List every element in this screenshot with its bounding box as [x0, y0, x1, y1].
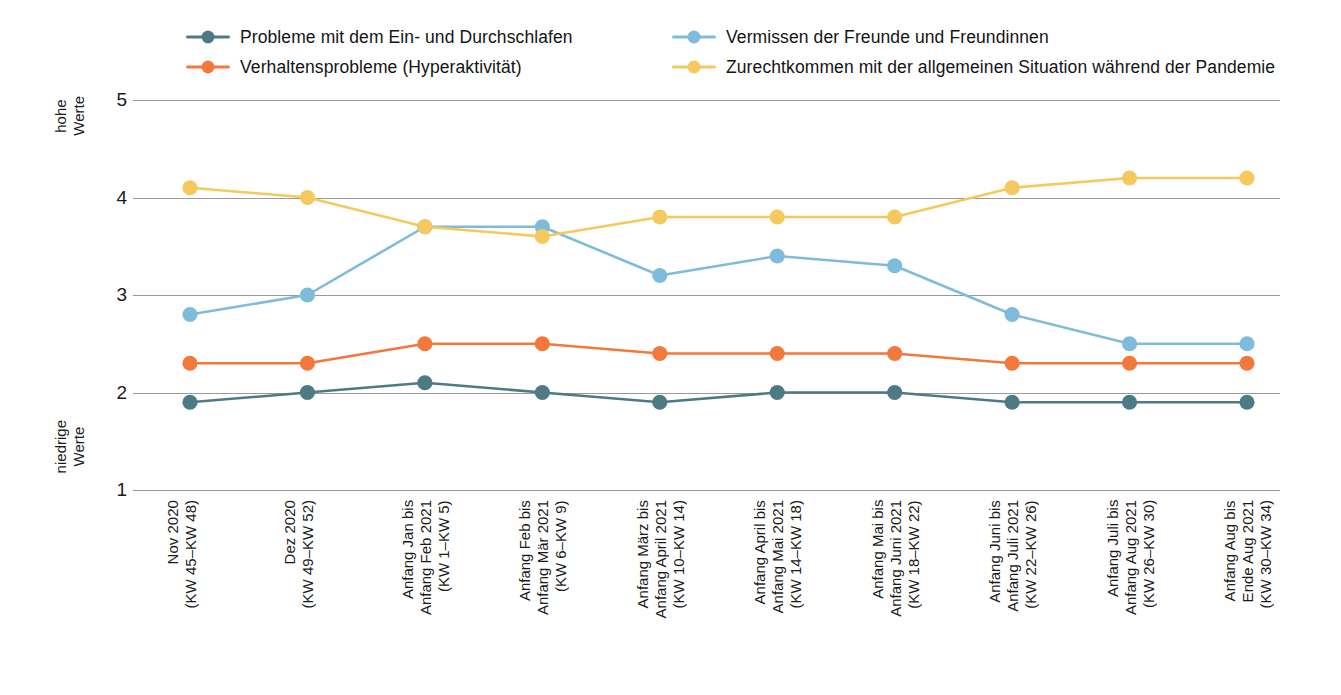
y-axis-tick-label: 3 [87, 284, 127, 306]
data-point[interactable] [1122, 395, 1137, 410]
plot-area: 12345 [133, 100, 1280, 490]
x-axis-label: Anfang Juli bis Anfang Aug 2021 (KW 26–K… [1104, 500, 1158, 615]
data-point[interactable] [652, 209, 667, 224]
data-point[interactable] [887, 258, 902, 273]
data-point[interactable] [300, 287, 315, 302]
data-point[interactable] [1005, 307, 1020, 322]
data-point[interactable] [300, 356, 315, 371]
legend-marker-icon [186, 29, 230, 45]
data-point[interactable] [652, 346, 667, 361]
data-point[interactable] [770, 209, 785, 224]
data-point[interactable] [887, 346, 902, 361]
y-axis-tick-label: 2 [87, 382, 127, 404]
legend-item-vermissen[interactable]: Vermissen der Freunde und Freundinnen [672, 27, 1306, 48]
data-point[interactable] [182, 307, 197, 322]
x-axis-label: Anfang Aug bis Ende Aug 2021 (KW 30–KW 3… [1221, 500, 1275, 608]
legend-marker-icon [672, 59, 716, 75]
data-point[interactable] [887, 385, 902, 400]
x-axis-label: Dez 2020 (KW 49–KW 52) [281, 500, 317, 608]
x-axis-label: Anfang Jan bis Anfang Feb 2021 (KW 1–KW … [399, 500, 453, 615]
legend-label: Zurechtkommen mit der allgemeinen Situat… [726, 57, 1275, 78]
data-point[interactable] [770, 248, 785, 263]
data-point[interactable] [300, 190, 315, 205]
data-point[interactable] [182, 180, 197, 195]
x-axis-label: Anfang April bis Anfang Mai 2021 (KW 14–… [751, 500, 805, 613]
data-point[interactable] [1239, 356, 1254, 371]
y-axis-high-note: hohe Werte [52, 96, 87, 136]
legend-item-schlafen[interactable]: Probleme mit dem Ein- und Durchschlafen [186, 27, 672, 48]
data-point[interactable] [535, 336, 550, 351]
series-layer [133, 100, 1280, 490]
data-point[interactable] [770, 346, 785, 361]
data-point[interactable] [1005, 356, 1020, 371]
legend-label: Verhaltensprobleme (Hyperaktivität) [240, 57, 522, 78]
series-line [190, 178, 1247, 237]
y-axis-tick-label: 4 [87, 187, 127, 209]
legend-marker-icon [186, 59, 230, 75]
data-point[interactable] [1122, 336, 1137, 351]
series-line [190, 383, 1247, 403]
x-axis-label: Anfang Feb bis Anfang Mär 2021 (KW 6–KW … [516, 500, 570, 615]
y-axis-tick-label: 5 [87, 89, 127, 111]
data-point[interactable] [1005, 180, 1020, 195]
data-point[interactable] [1239, 395, 1254, 410]
data-point[interactable] [535, 385, 550, 400]
legend-item-zurechtkommen[interactable]: Zurechtkommen mit der allgemeinen Situat… [672, 57, 1306, 78]
data-point[interactable] [770, 385, 785, 400]
y-axis-tick-label: 1 [87, 479, 127, 501]
data-point[interactable] [887, 209, 902, 224]
data-point[interactable] [1005, 395, 1020, 410]
data-point[interactable] [535, 229, 550, 244]
legend-item-verhaltensprobleme[interactable]: Verhaltensprobleme (Hyperaktivität) [186, 57, 672, 78]
data-point[interactable] [1122, 170, 1137, 185]
data-point[interactable] [417, 336, 432, 351]
data-point[interactable] [1239, 336, 1254, 351]
data-point[interactable] [417, 219, 432, 234]
legend-label: Vermissen der Freunde und Freundinnen [726, 27, 1049, 48]
series-line [190, 344, 1247, 364]
legend-label: Probleme mit dem Ein- und Durchschlafen [240, 27, 573, 48]
chart-legend: Probleme mit dem Ein- und Durchschlafen … [186, 22, 1306, 82]
x-axis-labels: Nov 2020 (KW 45–KW 48)Dez 2020 (KW 49–KW… [133, 500, 1280, 690]
legend-marker-icon [672, 29, 716, 45]
data-point[interactable] [1122, 356, 1137, 371]
x-axis-label: Anfang Mai bis Anfang Juni 2021 (KW 18–K… [869, 500, 923, 617]
data-point[interactable] [182, 395, 197, 410]
gridline [133, 490, 1280, 491]
y-axis-low-note: niedrige Werte [52, 420, 87, 473]
data-point[interactable] [182, 356, 197, 371]
line-chart: Probleme mit dem Ein- und Durchschlafen … [0, 0, 1341, 695]
data-point[interactable] [652, 268, 667, 283]
x-axis-label: Anfang Juni bis Anfang Juli 2021 (KW 22–… [986, 500, 1040, 612]
data-point[interactable] [417, 375, 432, 390]
data-point[interactable] [652, 395, 667, 410]
data-point[interactable] [1239, 170, 1254, 185]
series-line [190, 227, 1247, 344]
x-axis-label: Anfang März bis Anfang April 2021 (KW 10… [634, 500, 688, 618]
x-axis-label: Nov 2020 (KW 45–KW 48) [164, 500, 200, 608]
data-point[interactable] [300, 385, 315, 400]
